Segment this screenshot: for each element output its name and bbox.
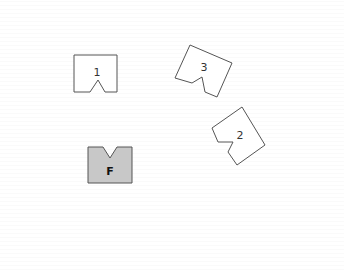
shape-F-label: F bbox=[106, 165, 114, 178]
shapes-svg: 1 3 2 F bbox=[0, 0, 344, 273]
shape-1: 1 bbox=[74, 55, 117, 92]
shape-F: F bbox=[88, 147, 132, 183]
shape-3: 3 bbox=[175, 45, 232, 97]
shape-2: 2 bbox=[212, 107, 265, 165]
diagram-canvas: 1 3 2 F bbox=[0, 0, 344, 273]
shape-1-label: 1 bbox=[94, 66, 101, 79]
shape-2-label: 2 bbox=[237, 129, 244, 142]
shape-3-label: 3 bbox=[201, 61, 208, 74]
